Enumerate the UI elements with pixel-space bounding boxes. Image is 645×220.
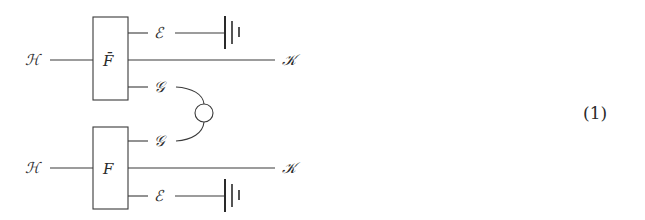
equation-number: (1) <box>583 103 607 123</box>
bottom-block: ℋ F 𝒢 𝒦 ℰ <box>25 127 301 212</box>
bottom-output-label: 𝒦 <box>282 159 301 177</box>
top-g-curve <box>176 87 204 104</box>
bottom-box-label: F <box>102 160 114 178</box>
ground-icon <box>225 16 239 49</box>
ground-icon <box>225 179 239 212</box>
bottom-input-label: ℋ <box>25 159 42 177</box>
circle-icon <box>195 104 213 122</box>
circuit-diagram: ℋ F̄ ℰ 𝒦 𝒢 ℋ F 𝒢 𝒦 <box>0 0 645 220</box>
top-e-label: ℰ <box>154 24 165 42</box>
bottom-e-label: ℰ <box>154 187 165 205</box>
top-g-label: 𝒢 <box>154 78 167 96</box>
top-box-label: F̄ <box>102 52 114 70</box>
bottom-g-curve <box>176 122 204 141</box>
top-output-label: 𝒦 <box>282 51 301 69</box>
bottom-g-label: 𝒢 <box>154 132 167 150</box>
g-connector <box>176 87 213 141</box>
top-input-label: ℋ <box>25 51 42 69</box>
top-block: ℋ F̄ ℰ 𝒦 𝒢 <box>25 16 301 100</box>
